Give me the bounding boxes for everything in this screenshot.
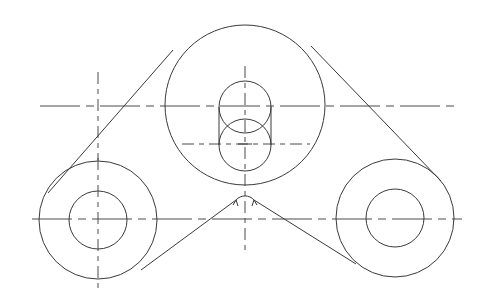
belt-upper-left bbox=[48, 50, 173, 193]
centerlines bbox=[32, 66, 462, 288]
idler-arrow-left bbox=[233, 200, 238, 206]
belt-upper-right bbox=[311, 46, 441, 181]
belt-drive-drawing bbox=[0, 0, 480, 306]
right-pulley-inner-circle bbox=[366, 189, 424, 247]
belt-idler-arc bbox=[236, 196, 254, 200]
belt-lower-right bbox=[254, 200, 356, 264]
